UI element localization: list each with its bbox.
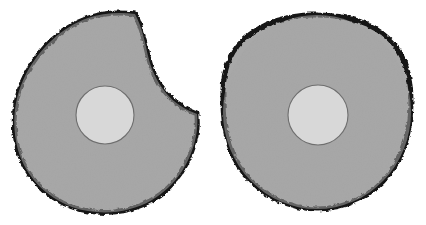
figure-canvas — [0, 0, 426, 225]
left-disc-core — [76, 86, 134, 144]
figure-container — [0, 0, 426, 225]
right-disc-core — [288, 85, 348, 145]
